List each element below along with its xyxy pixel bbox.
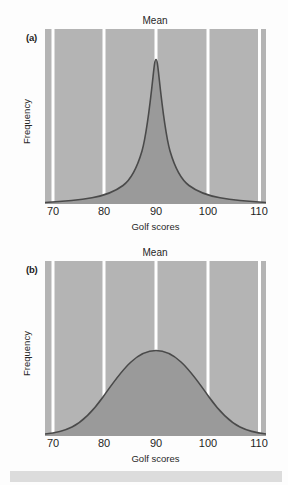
panel-b-x-axis-label: Golf scores (45, 454, 266, 464)
panel-a-chart (45, 29, 266, 204)
panel-a-y-axis-label: Frequency (22, 99, 32, 144)
caption-band (10, 471, 282, 482)
panel-b-xtick-90: 90 (150, 438, 162, 449)
panel-a-letter: (a) (26, 33, 37, 43)
panel-b-xtick-100: 100 (199, 438, 217, 449)
panel-a-xtick-70: 70 (47, 206, 59, 217)
panel-a-curve-fill (45, 60, 266, 205)
panel-b-xtick-80: 80 (98, 438, 110, 449)
panel-a-xtick-90: 90 (150, 206, 162, 217)
panel-a-xtick-110: 110 (250, 206, 268, 217)
panel-b: (b) Mean Frequency 70 80 90 100 (0, 238, 288, 470)
panel-a-plot-area (45, 29, 266, 204)
panel-a-xtick-80: 80 (98, 206, 110, 217)
figure-container: (a) Mean Frequency 70 80 90 (0, 0, 288, 485)
panel-b-xtick-70: 70 (47, 438, 59, 449)
panel-a-x-axis-label: Golf scores (45, 222, 266, 232)
panel-b-mean-label: Mean (0, 248, 288, 258)
panel-a: (a) Mean Frequency 70 80 90 (0, 0, 288, 238)
panel-a-xtick-100: 100 (199, 206, 217, 217)
panel-b-letter: (b) (26, 265, 38, 275)
panel-b-chart (45, 261, 266, 436)
panel-b-plot-area (45, 261, 266, 436)
panel-a-mean-label: Mean (0, 16, 288, 26)
panel-b-x-tick-labels: 70 80 90 100 110 (45, 438, 266, 454)
panel-b-xtick-110: 110 (250, 438, 268, 449)
panel-a-x-tick-labels: 70 80 90 100 110 (45, 206, 266, 222)
panel-b-y-axis-label: Frequency (22, 331, 32, 376)
